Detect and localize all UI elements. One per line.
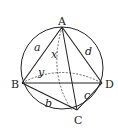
edge-label-d: d <box>85 45 92 58</box>
edge-label-b: b <box>45 97 52 110</box>
edge-label-a: a <box>34 41 41 54</box>
edge-label-y: y <box>37 66 45 79</box>
vertex-label-D: D <box>105 78 114 91</box>
edge-AC <box>62 27 77 110</box>
vertex-label-B: B <box>11 78 19 91</box>
edge-label-x: x <box>51 48 58 61</box>
edge-d <box>62 27 102 83</box>
vertex-label-C: C <box>74 114 82 127</box>
vertex-label-A: A <box>57 15 67 28</box>
edge-label-c: c <box>84 89 90 102</box>
tetrahedron-diagram: A B C D a d x y b c <box>0 0 118 130</box>
edge-y-arc <box>22 73 102 84</box>
